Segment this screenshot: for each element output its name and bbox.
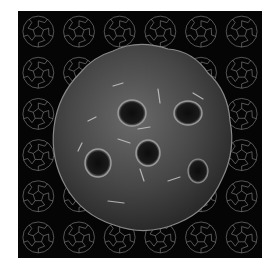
molecule-hole (174, 101, 202, 125)
molecule-hole (136, 140, 160, 166)
molecule-body (53, 44, 232, 230)
image-panel (18, 11, 262, 258)
molecule-hole (118, 100, 146, 126)
fullerene-molecule (18, 11, 262, 258)
molecule-hole (85, 149, 111, 177)
molecule-hole (188, 159, 208, 183)
